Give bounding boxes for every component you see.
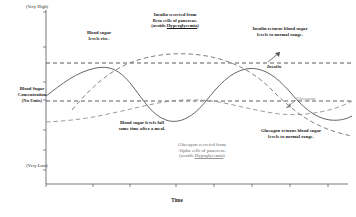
insulin-curve-label: Insulin — [267, 64, 281, 69]
x-axis-title: Time — [152, 197, 202, 203]
annotation-glucagon-secreted-line2: Alpha cells of pancreas. — [178, 148, 226, 153]
blood-sugar-regulation-figure: (Very High) (Very Low) Blood Sugar Conce… — [0, 0, 356, 217]
annotation-hyperglycemia-term: Hyperglycemia — [167, 23, 198, 28]
x-axis-ticks — [46, 184, 328, 187]
annotation-glucagon-secreted-line1: Glucagon secreted from — [178, 142, 226, 147]
annotation-insulin-returns: Insulin returns blood sugar levels to no… — [238, 26, 322, 37]
annotation-glucagon-secreted-prefix: (avoids — [179, 153, 195, 158]
annotation-insulin-secreted-suffix: ) — [197, 23, 199, 28]
annotation-glucagon-secreted: Glucagon secreted fromAlpha cells of pan… — [160, 142, 244, 159]
blood-sugar-curve — [46, 67, 352, 121]
insulin-leader-arrow — [268, 52, 280, 62]
annotation-insulin-secreted-prefix: (avoids — [151, 23, 167, 28]
glucagon-curve-label: Glucagon — [296, 96, 315, 101]
annotation-insulin-secreted-line2: Beta cells of pancreas. — [153, 18, 197, 23]
annotation-blood-sugar-fall: Blood sugar levels fall some time after … — [98, 120, 186, 131]
y-axis-max-label: (Very High) — [14, 4, 60, 10]
annotation-insulin-secreted: Insulin secreted fromBeta cells of pancr… — [132, 12, 218, 29]
y-axis-title: Blood Sugar Concentration (No Units) — [2, 86, 62, 105]
annotation-blood-sugar-rise: Blood sugar levels rise. — [70, 30, 128, 41]
annotation-hypoglycemia-term: Hypoglycemia — [195, 153, 224, 158]
annotation-glucagon-returns: Glucagon returns blood sugar levels to n… — [246, 128, 336, 139]
y-axis-min-label: (Very Low) — [14, 163, 60, 169]
annotation-insulin-secreted-line1: Insulin secreted from — [154, 12, 197, 17]
annotation-glucagon-secreted-suffix: ) — [223, 153, 225, 158]
